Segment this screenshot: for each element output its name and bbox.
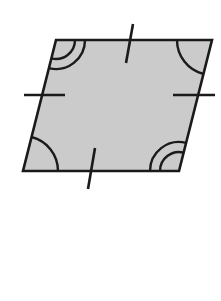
parallelogram-diagram — [0, 0, 221, 301]
